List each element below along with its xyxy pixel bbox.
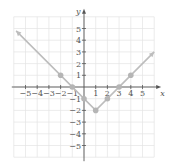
y-tick-label: −2	[69, 106, 81, 115]
data-point	[128, 73, 134, 79]
x-tick-label: −2	[55, 89, 67, 98]
y-tick-label: −5	[69, 142, 81, 151]
x-tick-label: 3	[117, 89, 122, 98]
x-axis-label: x	[160, 89, 165, 98]
data-point	[70, 84, 76, 90]
data-point	[81, 96, 87, 102]
x-tick-label: −5	[20, 89, 32, 98]
y-tick-label: −3	[69, 118, 81, 127]
data-point	[116, 84, 122, 90]
data-point	[93, 108, 99, 114]
data-point	[105, 96, 111, 102]
y-tick-label: −1	[69, 95, 81, 104]
y-tick-label: 1	[76, 71, 81, 80]
tick-labels: −5−4−3−2−11234554321−1−2−3−4−5	[20, 25, 145, 151]
x-tick-label: 5	[140, 89, 145, 98]
y-axis-label: y	[75, 7, 81, 16]
graph-plot: −5−4−3−2−11234554321−1−2−3−4−5 x y	[0, 0, 170, 162]
y-tick-label: 5	[76, 25, 81, 34]
x-tick-label: −3	[43, 89, 55, 98]
y-tick-label: −4	[69, 130, 81, 139]
y-tick-label: 2	[76, 60, 81, 69]
x-tick-label: −4	[31, 89, 43, 98]
x-tick-label: 1	[93, 89, 98, 98]
data-point	[58, 73, 64, 79]
y-axis-arrow-icon	[82, 9, 86, 14]
axes	[12, 9, 161, 161]
y-tick-label: 4	[76, 36, 81, 45]
y-tick-label: 3	[76, 48, 81, 57]
x-tick-label: 4	[128, 89, 133, 98]
